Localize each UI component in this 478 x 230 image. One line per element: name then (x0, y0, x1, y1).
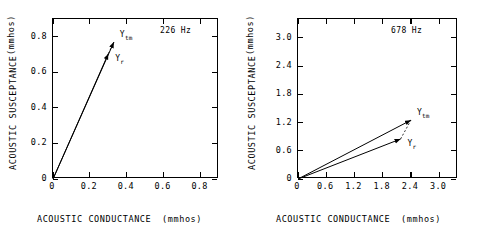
y-tick-label: 0 (42, 173, 47, 183)
y-tick-label: 1.8 (276, 88, 292, 98)
vector-Y_r (298, 139, 401, 179)
y-tick-label: 0 (287, 173, 292, 183)
x-tick-label: 0 (294, 181, 299, 191)
x-tick-label: 0.8 (191, 181, 207, 191)
vector-Y_tm (298, 120, 411, 179)
vector-Y_r (53, 54, 108, 179)
vector-label-Y_tm: Ytm (120, 30, 133, 41)
x-tick-label: 3.0 (430, 181, 446, 191)
admittance-figure: ACOUSTIC SUSCEPTANCE (mmhos) ACOUSTIC CO… (0, 0, 478, 230)
y-axis-unit: (mmhos) (6, 15, 16, 55)
y-axis-title-left: ACOUSTIC SUSCEPTANCE (mmhos) (6, 0, 20, 185)
x-tick-label: 1.8 (374, 181, 390, 191)
y-tick-label: 2.4 (276, 60, 292, 70)
x-tick-label: 0.6 (317, 181, 333, 191)
y-tick-label: 0.8 (31, 31, 47, 41)
vector-layer (298, 19, 458, 179)
plot-frame-left (52, 18, 218, 178)
x-axis-unit: (mmhos) (401, 214, 441, 224)
y-tick-label: 1.2 (276, 117, 292, 127)
vector-label-Y_tm: Ytm (417, 108, 430, 119)
plot-frame-right (297, 18, 457, 178)
x-axis-title-left: ACOUSTIC CONDUCTANCE (mmhos) (0, 214, 239, 224)
x-tick-label: 0.6 (155, 181, 171, 191)
y-axis-title-text: ACOUSTIC SUSCEPTANCE (247, 55, 257, 169)
x-axis-title-text: ACOUSTIC CONDUCTANCE (37, 214, 151, 224)
vector-label-Y_r: Yr (408, 139, 417, 150)
x-axis-unit: (mmhos) (162, 214, 202, 224)
y-tick-label: 3.0 (276, 32, 292, 42)
x-tick-label: 0 (49, 181, 54, 191)
frequency-annotation-left: 226 Hz (160, 26, 191, 35)
x-tick-label: 2.4 (402, 181, 418, 191)
x-tick-label: 0.4 (118, 181, 134, 191)
x-axis-title-right: ACOUSTIC CONDUCTANCE (mmhos) (239, 214, 478, 224)
y-tick-label: 0.6 (276, 145, 292, 155)
vector-layer (53, 19, 219, 179)
vector-label-Y_r: Yr (115, 54, 124, 65)
x-axis-title-text: ACOUSTIC CONDUCTANCE (276, 214, 390, 224)
y-axis-title-right: ACOUSTIC SUSCEPTANCE (mmhos) (245, 0, 259, 185)
x-tick-label: 1.2 (345, 181, 361, 191)
frequency-annotation-right: 678 Hz (391, 26, 422, 35)
y-tick-label: 0.2 (31, 137, 47, 147)
y-axis-unit: (mmhos) (245, 15, 255, 55)
y-axis-title-text: ACOUSTIC SUSCEPTANCE (8, 55, 18, 169)
y-tick-label: 0.6 (31, 66, 47, 76)
x-tick-label: 0.2 (81, 181, 97, 191)
panel-678hz: ACOUSTIC SUSCEPTANCE (mmhos) ACOUSTIC CO… (239, 0, 478, 230)
panel-226hz: ACOUSTIC SUSCEPTANCE (mmhos) ACOUSTIC CO… (0, 0, 239, 230)
y-tick-label: 0.4 (31, 102, 47, 112)
